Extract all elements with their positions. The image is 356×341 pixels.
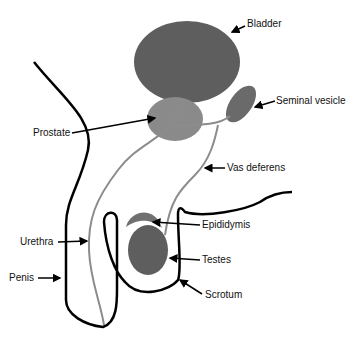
label-bladder: Bladder — [247, 18, 281, 30]
bladder-shape — [134, 21, 240, 103]
label-urethra: Urethra — [20, 236, 53, 248]
label-penis: Penis — [9, 272, 34, 284]
diagram-drawing — [0, 0, 356, 341]
label-seminal-vesicle: Seminal vesicle — [276, 95, 345, 107]
label-vas-deferens: Vas deferens — [227, 162, 285, 174]
testes-shape — [128, 225, 168, 275]
anatomy-diagram: Bladder Seminal vesicle Prostate Vas def… — [0, 0, 356, 341]
label-testes: Testes — [202, 254, 231, 266]
label-prostate: Prostate — [33, 127, 70, 139]
label-epididymis: Epididymis — [202, 219, 250, 231]
label-scrotum: Scrotum — [205, 289, 242, 301]
